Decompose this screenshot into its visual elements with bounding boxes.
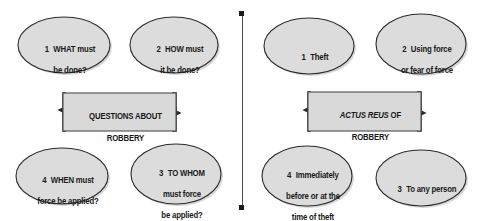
panel-divider-dot-bottom — [239, 205, 244, 210]
node-bottom-right — [131, 144, 221, 204]
panel-divider-dot-top — [239, 11, 244, 16]
node-bottom-right — [376, 150, 466, 206]
center-box — [63, 93, 176, 131]
panel-divider-line — [242, 13, 243, 209]
panel-actus-reus-of-robbery: 1 Theft 2 Using force or fear of force 4… — [241, 0, 482, 221]
node-top-left — [18, 17, 110, 73]
center-box — [308, 92, 421, 131]
node-top-right — [130, 17, 218, 73]
diagram-canvas: 1 WHAT must be done? 2 HOW must it be do… — [0, 0, 482, 221]
panel-left-artwork — [0, 0, 241, 221]
node-top-right — [376, 14, 466, 74]
panel-questions-about-robbery: 1 WHAT must be done? 2 HOW must it be do… — [0, 0, 241, 221]
node-bottom-left — [262, 146, 352, 206]
panel-right-artwork — [241, 0, 482, 221]
node-bottom-left — [16, 148, 108, 204]
node-top-left — [264, 18, 354, 74]
